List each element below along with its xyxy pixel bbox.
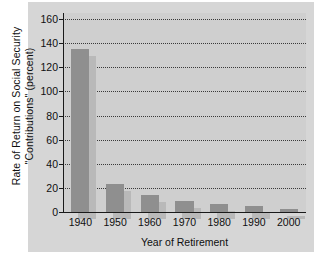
y-tick-label-20: 20 [6,182,58,194]
y-tick-mark-120 [59,67,63,68]
x-tick-label-2000: 2000 [277,216,300,228]
y-tick-label-120: 120 [6,61,58,73]
y-tick-mark-140 [59,43,63,44]
y-tick-mark-80 [59,116,63,117]
y-tick-label-80: 80 [6,110,58,122]
x-tick-label-1970: 1970 [173,216,196,228]
x-tick-label-1990: 1990 [242,216,265,228]
x-tick-label-1950: 1950 [103,216,126,228]
x-axis-title: Year of Retirement [63,236,306,248]
x-tick-label-1940: 1940 [69,216,92,228]
chart-figure: Rate of Return on Social Security "Contr… [0,0,316,256]
bar-1940 [71,49,89,212]
x-tick-label-1980: 1980 [208,216,231,228]
y-tick-mark-20 [59,188,63,189]
y-tick-label-140: 140 [6,37,58,49]
y-tick-mark-40 [59,164,63,165]
bar-1950 [106,184,124,212]
x-axis-line [63,212,306,213]
x-tick-label-1960: 1960 [138,216,161,228]
y-tick-mark-160 [59,19,63,20]
plot-area [63,13,306,212]
y-tick-label-100: 100 [6,85,58,97]
bar-1960 [141,195,159,212]
y-axis-ticks: 020406080100120140160 [0,13,58,213]
y-tick-label-160: 160 [6,13,58,25]
bar-1980 [210,204,228,212]
y-tick-label-60: 60 [6,134,58,146]
y-tick-mark-60 [59,140,63,141]
bar-series [63,13,306,212]
bar-1970 [175,201,193,212]
y-tick-label-0: 0 [6,206,58,218]
y-tick-mark-0 [59,212,63,213]
y-tick-label-40: 40 [6,158,58,170]
y-tick-mark-100 [59,91,63,92]
y-axis-line [63,13,64,213]
